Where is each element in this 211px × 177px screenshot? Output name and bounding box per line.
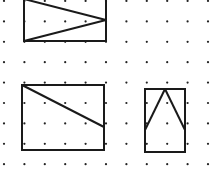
grid-dot (207, 122, 209, 124)
grid-dot (187, 82, 189, 84)
grid-dot (105, 102, 107, 104)
grid-dot (23, 163, 25, 165)
grid-dot (146, 41, 148, 43)
grid-dot (125, 41, 127, 43)
grid-dot (105, 122, 107, 124)
grid-dot (187, 61, 189, 63)
grid-dot (64, 163, 66, 165)
inner-line (24, 0, 106, 20)
grid-dot (3, 163, 5, 165)
grid-dot (3, 82, 5, 84)
grid-dot (146, 143, 148, 145)
grid-dot (3, 41, 5, 43)
grid-dot (85, 0, 87, 2)
grid-dot (105, 82, 107, 84)
grid-dot (44, 122, 46, 124)
grid-dot (105, 61, 107, 63)
grid-dot (187, 163, 189, 165)
grid-dot (125, 163, 127, 165)
grid-dot (166, 20, 168, 22)
grid-dot (64, 61, 66, 63)
grid-dot (44, 20, 46, 22)
grid-dot (207, 41, 209, 43)
rectangle-with-triangle-pointing-up (145, 89, 185, 152)
grid-dot (64, 122, 66, 124)
grid-dot (146, 163, 148, 165)
grid-dot (166, 102, 168, 104)
grid-dot (85, 163, 87, 165)
grid-dot (23, 82, 25, 84)
grid-dot (105, 143, 107, 145)
grid-dot (125, 143, 127, 145)
grid-dot (166, 0, 168, 2)
grid-dot (44, 163, 46, 165)
grid-dot (146, 20, 148, 22)
grid-dot (146, 0, 148, 2)
grid-dot (3, 143, 5, 145)
grid-dot (125, 102, 127, 104)
grid-dot (187, 143, 189, 145)
grid-dot (125, 20, 127, 22)
grid-dot (166, 41, 168, 43)
grid-dot (125, 0, 127, 2)
grid-dot (64, 0, 66, 2)
grid-dot (85, 122, 87, 124)
grid-dot (23, 122, 25, 124)
grid-dot (187, 20, 189, 22)
grid-dot (3, 20, 5, 22)
grid-dot (187, 122, 189, 124)
grid-dot (207, 163, 209, 165)
grid-dot (166, 82, 168, 84)
grid-dot (105, 163, 107, 165)
grid-dot (207, 82, 209, 84)
grid-dot (64, 82, 66, 84)
grid-dot (187, 0, 189, 2)
grid-dot (23, 102, 25, 104)
grid-dot (125, 122, 127, 124)
grid-dot (85, 61, 87, 63)
figures (22, 0, 185, 152)
grid-dot (85, 20, 87, 22)
grid-dot (187, 41, 189, 43)
grid-dot (166, 143, 168, 145)
grid-dot (207, 20, 209, 22)
grid-dot (187, 102, 189, 104)
grid-dot (125, 82, 127, 84)
grid-dot (85, 143, 87, 145)
grid-dot (44, 61, 46, 63)
grid-dot (85, 102, 87, 104)
grid-dot (64, 20, 66, 22)
grid-dot (44, 102, 46, 104)
grid-dot (166, 61, 168, 63)
grid-dot (44, 0, 46, 2)
inner-line (24, 20, 106, 41)
grid-dot (44, 143, 46, 145)
grid-dot (3, 61, 5, 63)
grid-dot (146, 61, 148, 63)
grid-dot (207, 102, 209, 104)
grid-dot (146, 82, 148, 84)
rectangle-outline (145, 89, 185, 152)
grid-dot (166, 163, 168, 165)
dot-grid-diagram (0, 0, 211, 177)
grid-dot (23, 143, 25, 145)
grid-dot (3, 122, 5, 124)
grid-dot (3, 102, 5, 104)
grid-dot (85, 82, 87, 84)
inner-line (22, 85, 104, 127)
rectangle-with-diagonal (22, 85, 104, 150)
rectangle-outline (22, 85, 104, 150)
grid-dot (166, 122, 168, 124)
grid-dot (146, 102, 148, 104)
grid-dot (125, 61, 127, 63)
inner-line (145, 89, 165, 130)
grid-dot (207, 143, 209, 145)
grid-dot (207, 61, 209, 63)
grid-dot (3, 0, 5, 2)
grid-dot (64, 143, 66, 145)
grid-dot (64, 102, 66, 104)
grid-dot (23, 61, 25, 63)
grid-dot (207, 0, 209, 2)
grid-dot (44, 82, 46, 84)
